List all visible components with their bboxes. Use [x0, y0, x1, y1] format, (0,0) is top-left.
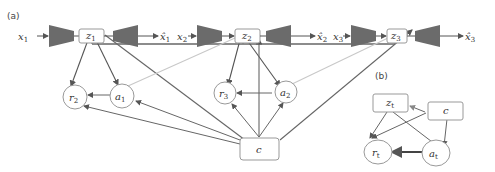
panel-b-label: (b) — [375, 71, 388, 81]
encoder-1-shape — [49, 25, 74, 47]
context-c-label: c — [256, 144, 262, 155]
recon-x3: x̂3 — [465, 31, 475, 44]
decoder-3-shape — [415, 25, 440, 47]
input-x1: x1 — [18, 31, 28, 44]
panel-a-label: (a) — [7, 11, 20, 21]
input-x3: x3 — [333, 31, 343, 44]
recon-x1: x̂1 — [160, 31, 170, 44]
input-x2: x2 — [177, 31, 187, 44]
panel-b: zt c rt at — [364, 94, 463, 166]
recon-x2: x̂2 — [317, 31, 327, 44]
diagram-canvas: (a) (b) x1 — [0, 0, 495, 172]
context-c-b-label: c — [443, 105, 449, 116]
